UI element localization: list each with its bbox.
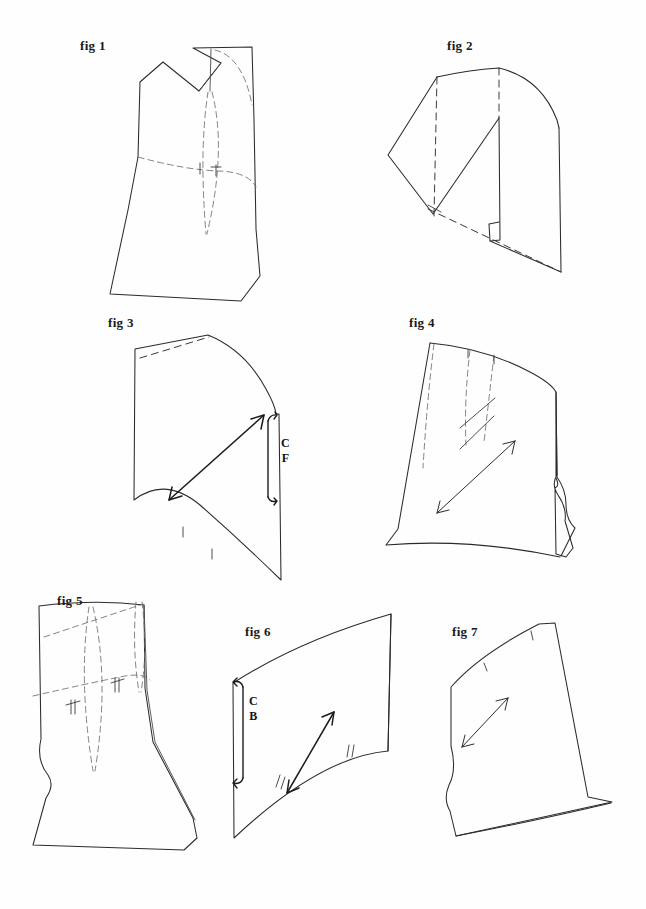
fig3-cf-arrow-bottom: [268, 497, 277, 505]
fig1-waistline-dash: [138, 157, 256, 187]
centre-back-line2: B: [249, 709, 258, 724]
figure-fig1: [110, 47, 260, 301]
fig6-notch-1a: [276, 775, 280, 787]
fig-label-7: fig 7: [452, 624, 478, 640]
figure-fig7: [446, 623, 612, 836]
centre-front-line2: F: [281, 451, 290, 466]
figure-fig5: [33, 602, 197, 850]
fig3-grainline: [169, 415, 264, 500]
fig1-waist-dart-right: [207, 92, 218, 234]
centre-back-marking: C B: [249, 694, 258, 724]
pattern-drawing-canvas: [0, 0, 646, 909]
fig5-waistline-dash: [33, 675, 150, 696]
fig4-outline-body: [386, 343, 560, 557]
figure-fig4: [386, 343, 575, 557]
fig-label-5: fig 5: [57, 593, 83, 609]
centre-back-line1: C: [249, 694, 258, 709]
fig4-dart-leg-2: [466, 350, 471, 445]
figure-fig2: [388, 68, 561, 272]
fig4-outline: [430, 343, 573, 557]
fig7-grainline: [462, 698, 508, 747]
fig6-notch-1b: [281, 777, 285, 789]
fig6-outline: [233, 614, 391, 838]
fig3-outline: [134, 335, 281, 580]
fig4-right-edge: [556, 392, 575, 556]
fig2-outline-hem: [489, 222, 499, 241]
figure-fig3: [134, 335, 281, 580]
fig5-notch-5: [66, 701, 80, 705]
fig6-notch-2a: [347, 745, 349, 757]
centre-front-line1: C: [281, 436, 290, 451]
fig1-centre-line: [210, 49, 211, 91]
fig5-dart-2-left: [135, 602, 139, 692]
fig-label-4: fig 4: [409, 315, 435, 331]
fig7-notch-1: [484, 663, 487, 671]
fig3-cf-arrow-top: [268, 412, 277, 421]
fig2-outline-right: [559, 128, 561, 272]
fig6-cb-arrow-bottom: [233, 778, 243, 788]
fig2-outline-upper: [388, 77, 499, 214]
fig5-notch-6: [111, 679, 124, 683]
fig3-top-dash: [140, 337, 209, 358]
fig7-notch-2: [531, 631, 533, 640]
fig-label-2: fig 2: [447, 38, 473, 54]
fig-label-3: fig 3: [108, 315, 134, 331]
fig4-dart-leg-1: [423, 344, 434, 468]
fig2-dash-left: [434, 77, 437, 216]
fig1-neckline-dash: [215, 50, 252, 105]
fig2-dash-diagonal: [428, 209, 559, 271]
centre-front-marking: C F: [281, 436, 290, 466]
fig6-notch-2b: [352, 745, 354, 757]
fig5-dart-left: [84, 607, 93, 771]
fig6-right-edge: [388, 614, 391, 751]
pattern-sheet: fig 1 fig 2 fig 3 fig 4 fig 5 fig 6 fig …: [0, 0, 646, 909]
fig1-waist-dart-left: [203, 92, 208, 234]
fig6-grainline: [287, 712, 334, 793]
fig7-outline: [446, 623, 612, 836]
fig5-inner-seam: [144, 605, 195, 820]
fig-label-6: fig 6: [245, 624, 271, 640]
fig2-outline-lower: [490, 118, 561, 272]
fig5-dart-right: [93, 607, 102, 771]
fig4-grainline: [437, 441, 515, 513]
fig-label-1: fig 1: [80, 38, 106, 54]
figure-fig6: [233, 614, 391, 838]
fig5-outline: [33, 602, 197, 850]
fig4-dart-leg-3: [484, 355, 494, 442]
